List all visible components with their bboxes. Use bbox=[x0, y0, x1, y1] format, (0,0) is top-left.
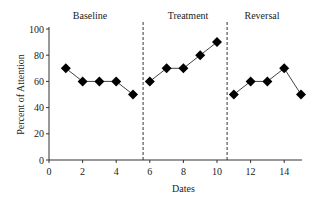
y-tick-label: 0 bbox=[39, 155, 44, 166]
x-tick-label: 12 bbox=[246, 166, 256, 177]
data-point-diamond bbox=[128, 90, 138, 100]
data-point-diamond bbox=[246, 76, 256, 86]
data-point-diamond bbox=[78, 76, 88, 86]
data-point-diamond bbox=[279, 63, 289, 73]
data-point-diamond bbox=[94, 76, 104, 86]
x-tick-label: 4 bbox=[114, 166, 119, 177]
x-tick-label: 14 bbox=[279, 166, 289, 177]
single-subject-chart: 02040608010002468101214BaselineTreatment… bbox=[0, 0, 321, 202]
y-tick-label: 40 bbox=[34, 102, 44, 113]
data-point-diamond bbox=[61, 63, 71, 73]
data-point-diamond bbox=[111, 76, 121, 86]
data-point-diamond bbox=[178, 63, 188, 73]
data-point-diamond bbox=[145, 76, 155, 86]
x-axis-title: Dates bbox=[172, 183, 195, 194]
x-tick-label: 0 bbox=[47, 166, 52, 177]
y-axis-title: Percent of Attention bbox=[15, 54, 26, 135]
data-point-diamond bbox=[229, 90, 239, 100]
y-tick-label: 100 bbox=[29, 24, 44, 35]
y-tick-label: 80 bbox=[34, 50, 44, 61]
data-line-treatment bbox=[150, 42, 217, 81]
data-point-diamond bbox=[212, 37, 222, 47]
phase-label-baseline: Baseline bbox=[73, 10, 108, 21]
x-tick-label: 6 bbox=[147, 166, 152, 177]
data-point-diamond bbox=[195, 50, 205, 60]
data-point-diamond bbox=[296, 90, 306, 100]
y-tick-label: 20 bbox=[34, 128, 44, 139]
data-point-diamond bbox=[162, 63, 172, 73]
x-tick-label: 2 bbox=[80, 166, 85, 177]
data-point-diamond bbox=[262, 76, 272, 86]
y-tick-label: 60 bbox=[34, 76, 44, 87]
phase-label-reversal: Reversal bbox=[245, 10, 280, 21]
x-tick-label: 8 bbox=[181, 166, 186, 177]
x-tick-label: 10 bbox=[212, 166, 222, 177]
phase-label-treatment: Treatment bbox=[168, 10, 209, 21]
